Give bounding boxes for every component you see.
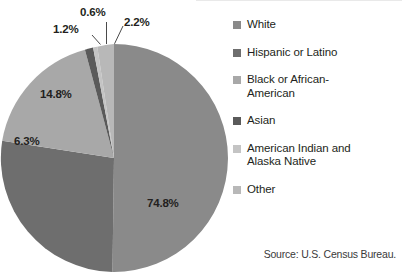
- callout-leader-lines: [92, 22, 123, 45]
- legend-label-asian: Asian: [247, 114, 275, 128]
- data-label-other: 2.2%: [124, 16, 149, 28]
- leader-line-other: [115, 26, 124, 44]
- data-label-asian: 1.2%: [53, 23, 78, 35]
- data-label-white: 74.8%: [147, 197, 179, 209]
- legend-swatch-icon-other: [233, 186, 241, 194]
- legend-swatch-icon-white: [233, 21, 241, 29]
- legend-label-black-or-african-american: Black or African-American: [247, 73, 355, 100]
- legend-swatch-icon-american-indian-and-alaska-native: [233, 145, 241, 153]
- pie-slices: [1, 44, 228, 272]
- legend-label-white: White: [247, 18, 276, 32]
- legend-swatch-icon-hispanic-or-latino: [233, 49, 241, 57]
- data-label-hispanic-or-latino: 6.3%: [14, 135, 39, 147]
- pie-slice-hispanic-or-latino[interactable]: [1, 141, 114, 272]
- legend-item-asian[interactable]: Asian: [233, 114, 398, 128]
- legend-item-other[interactable]: Other: [233, 183, 398, 197]
- chart-legend: White Hispanic or Latino Black or Africa…: [233, 18, 398, 210]
- legend-label-other: Other: [247, 183, 275, 197]
- pie-slice-white[interactable]: [112, 44, 228, 272]
- legend-item-hispanic-or-latino[interactable]: Hispanic or Latino: [233, 46, 398, 60]
- legend-label-hispanic-or-latino: Hispanic or Latino: [247, 46, 337, 60]
- legend-swatch-icon-asian: [233, 117, 241, 125]
- legend-label-american-indian-and-alaska-native: American Indian and Alaska Native: [247, 142, 367, 169]
- legend-item-black-or-african-american[interactable]: Black or African-American: [233, 73, 398, 100]
- data-label-black-or-african-american: 14.8%: [40, 88, 72, 100]
- legend-item-american-indian-and-alaska-native[interactable]: American Indian and Alaska Native: [233, 142, 398, 169]
- legend-swatch-icon-black-or-african-american: [233, 76, 241, 84]
- source-attribution: Source: U.S. Census Bureau.: [264, 248, 396, 260]
- legend-item-white[interactable]: White: [233, 18, 398, 32]
- data-label-american-indian-and-alaska-native: 0.6%: [80, 6, 105, 18]
- leader-line-asian: [92, 35, 101, 45]
- pie-chart-figure: 74.8% 6.3% 14.8% 1.2% 0.6% 2.2% White Hi…: [0, 0, 402, 273]
- pie-plot-area: 74.8% 6.3% 14.8% 1.2% 0.6% 2.2%: [0, 0, 228, 273]
